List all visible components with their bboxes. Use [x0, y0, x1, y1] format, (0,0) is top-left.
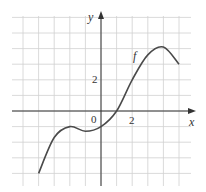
x-tick-label-2: 2 — [129, 114, 135, 126]
axes — [12, 11, 196, 186]
y-tick-label-2: 2 — [92, 73, 98, 85]
y-axis-label: y — [87, 10, 94, 24]
origin-label: 0 — [91, 113, 97, 125]
x-axis-arrow-icon — [188, 108, 196, 114]
function-label: f — [133, 49, 138, 63]
curve-f — [39, 47, 179, 174]
x-axis-label: x — [188, 115, 195, 129]
function-graph: x y f 0 2 2 — [0, 0, 206, 192]
y-axis-arrow-icon — [98, 11, 104, 19]
